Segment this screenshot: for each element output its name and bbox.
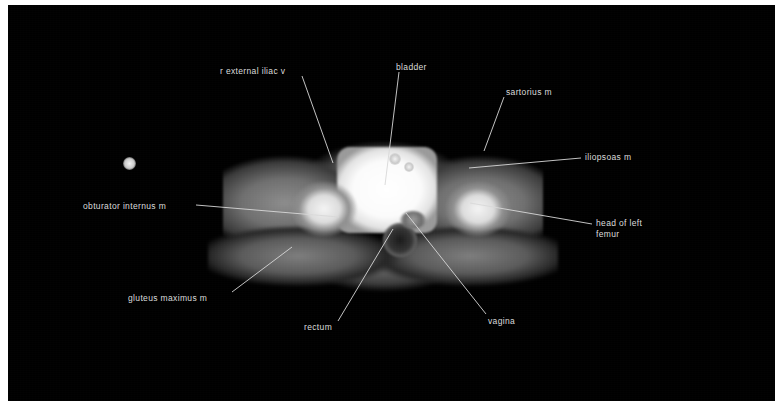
annotation-label-rectum: rectum bbox=[304, 322, 332, 333]
leader-line-rectum bbox=[338, 229, 393, 321]
ct-figure: r external iliac vbladdersartorius milio… bbox=[0, 0, 782, 409]
annotation-label-head-of-left-femur: head of left femur bbox=[596, 218, 642, 240]
annotation-label-gluteus-maximus-m: gluteus maximus m bbox=[128, 293, 207, 304]
leader-line-iliopsoas-m bbox=[469, 158, 581, 168]
annotation-label-r-external-iliac-v: r external iliac v bbox=[220, 66, 285, 77]
leader-line-sartorius-m bbox=[484, 97, 504, 151]
leader-line-gluteus-maximus-m bbox=[232, 247, 292, 292]
annotation-label-iliopsoas-m: iliopsoas m bbox=[585, 152, 631, 163]
annotation-label-bladder: bladder bbox=[396, 62, 427, 73]
leader-line-r-external-iliac-v bbox=[302, 76, 333, 163]
leader-line-bladder bbox=[385, 72, 399, 185]
leader-line-obturator-internus-m bbox=[196, 205, 339, 217]
leader-line-head-of-left-femur bbox=[470, 203, 592, 224]
annotation-label-sartorius-m: sartorius m bbox=[506, 87, 552, 98]
leader-line-vagina bbox=[406, 213, 486, 314]
annotation-label-obturator-internus-m: obturator internus m bbox=[83, 201, 166, 212]
annotation-label-vagina: vagina bbox=[488, 316, 515, 327]
